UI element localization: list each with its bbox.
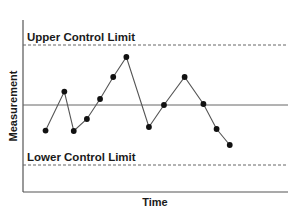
data-point [84, 116, 90, 122]
data-point [214, 126, 220, 132]
data-point [61, 89, 67, 95]
reference-lines [23, 45, 288, 165]
data-point [97, 96, 103, 102]
data-point [123, 54, 129, 60]
axes [23, 20, 288, 192]
data-point [71, 128, 77, 134]
data-point [146, 124, 152, 130]
reference-labels: Upper Control LimitLower Control Limit [27, 31, 136, 163]
data-point [227, 142, 233, 148]
data-point [110, 74, 116, 80]
data-point [182, 74, 188, 80]
data-point [43, 128, 49, 134]
control-chart: Upper Control LimitLower Control Limit T… [0, 0, 308, 216]
upper-control-limit-label: Upper Control Limit [27, 31, 135, 43]
lower-control-limit-label: Lower Control Limit [27, 151, 136, 163]
series-points [43, 54, 233, 148]
y-axis-label: Measurement [7, 70, 19, 141]
x-axis-label: Time [142, 196, 167, 208]
data-point [201, 101, 207, 107]
data-point [161, 102, 167, 108]
